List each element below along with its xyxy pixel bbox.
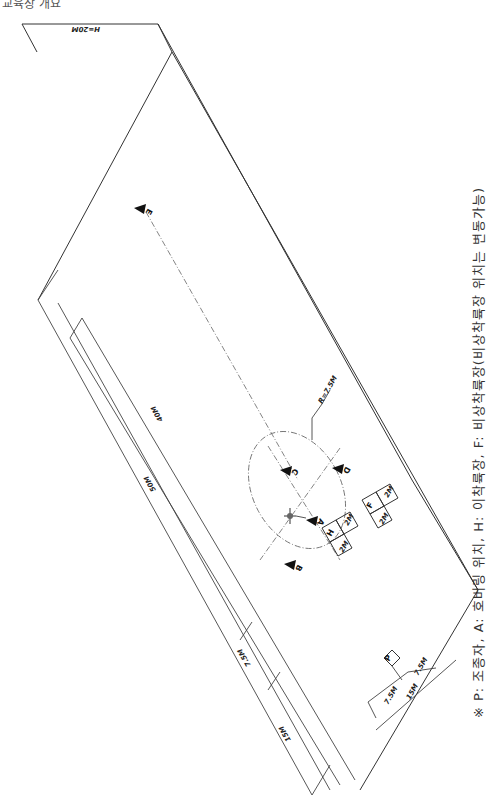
offset-15-label: 15M: [277, 725, 292, 743]
point-d: D: [332, 464, 352, 476]
point-e: E: [134, 204, 154, 216]
offset-7-5-label: 7.5M: [236, 647, 253, 668]
point-b: B: [284, 560, 304, 573]
height-dimension: H=20M: [22, 24, 172, 52]
svg-text:7.5M: 7.5M: [413, 656, 430, 677]
legend-note: ※ P: 조종자, A: 호버링 위치, H: 이착륙장, F: 비상착륙장(비…: [468, 187, 487, 718]
point-c: C: [280, 466, 300, 477]
pilot-position: P 7.5M 7.5M 15M: [368, 650, 456, 730]
svg-text:7.5M: 7.5M: [383, 685, 400, 706]
course-diagram: H=20M 50M 40M 7.5M 15M E R=7.5M: [0, 0, 491, 812]
flight-path: [146, 212, 298, 480]
point-a: A: [306, 516, 326, 528]
svg-text:P: P: [383, 653, 394, 663]
landing-pad-f: F 2M 2M: [362, 484, 398, 528]
length-dimensions: 50M 40M 7.5M 15M: [38, 270, 355, 795]
ground-plane: [38, 24, 478, 790]
landing-pad-h: H 2M 2M: [322, 512, 358, 556]
radius-label: R=7.5M: [317, 374, 339, 405]
height-label: H=20M: [72, 25, 100, 33]
length-inner-label: 40M: [149, 405, 164, 423]
